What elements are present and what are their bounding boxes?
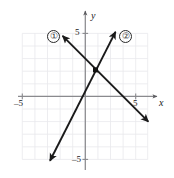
graph-canvas [0,0,174,178]
y-tick-label-positive-five: 5 [75,28,80,37]
coordinate-graph-figure: –5 5 5 –5 x y ① ② [0,0,174,178]
intersection-point [93,67,98,72]
line-two-label: ② [119,30,132,43]
x-tick-label-positive-five: 5 [133,99,138,108]
x-tick-label-negative-five: –5 [14,99,23,108]
y-tick-label-negative-five: –5 [72,155,81,164]
axis-lines [18,11,157,170]
line-one-label: ① [47,30,60,43]
x-axis-label: x [159,98,163,108]
y-axis-label: y [91,11,95,21]
